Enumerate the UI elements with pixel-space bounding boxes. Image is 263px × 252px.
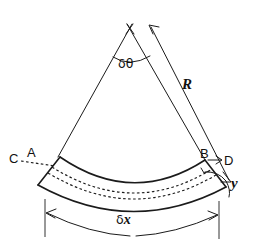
beam-bottom-arc bbox=[38, 185, 226, 212]
label-point-d: D bbox=[224, 154, 233, 167]
left-radius-ray bbox=[58, 24, 132, 157]
apex-tick-left bbox=[127, 24, 134, 34]
beam-left-end-face bbox=[38, 157, 60, 185]
radius-dimension bbox=[149, 25, 231, 182]
beam-element bbox=[38, 157, 226, 212]
beam-top-arc bbox=[60, 157, 205, 183]
label-point-c: C bbox=[9, 152, 18, 165]
beam-bending-diagram bbox=[0, 0, 263, 252]
delta-symbol-x: δ bbox=[116, 212, 124, 227]
wedge-rays bbox=[58, 24, 205, 160]
label-delta-x: δx bbox=[116, 213, 131, 227]
beam-dashed-arc-lower bbox=[48, 173, 216, 199]
label-radius-r: R bbox=[182, 77, 192, 92]
delta-x-dimension bbox=[45, 199, 219, 239]
right-radius-ray bbox=[127, 24, 205, 160]
delta-x-dimension-arc-right bbox=[136, 215, 217, 236]
apex-crossing bbox=[126, 24, 134, 34]
label-point-b: B bbox=[200, 147, 209, 160]
delta-symbol-theta: δ bbox=[118, 56, 126, 71]
diagram-canvas: C A B D y R δθ δx bbox=[0, 0, 263, 252]
x-symbol: x bbox=[124, 212, 131, 227]
theta-symbol: θ bbox=[126, 56, 134, 71]
label-distance-y: y bbox=[231, 176, 238, 191]
reference-chord-dashed bbox=[21, 161, 55, 166]
label-point-a: A bbox=[27, 146, 36, 159]
label-delta-theta: δθ bbox=[118, 58, 133, 71]
